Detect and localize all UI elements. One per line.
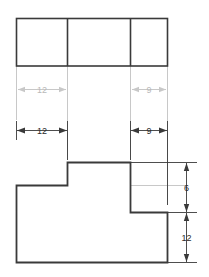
arrow-down-6: [184, 163, 189, 171]
arrow-down-12: [184, 213, 189, 221]
faded-arrow-right-9: [159, 87, 166, 92]
faded-arrow-left-9: [132, 87, 139, 92]
faded-dim-label-9: 9: [146, 85, 151, 95]
arrow-right-12: [59, 128, 67, 134]
engineering-drawing: 12 9 12 9: [0, 0, 209, 277]
arrow-right-9: [159, 128, 167, 134]
top-view-outline: [17, 19, 168, 67]
dim-label-9: 9: [146, 126, 151, 136]
arrow-left-9: [131, 128, 139, 134]
faded-arrow-left-12: [18, 87, 25, 92]
front-view: [17, 163, 168, 263]
arrow-up-6: [184, 204, 189, 212]
arrow-left-12: [17, 128, 25, 134]
vert-dim-label-6: 6: [184, 183, 189, 193]
top-view: [17, 19, 168, 67]
vert-dim-label-12: 12: [181, 233, 191, 243]
drawing-canvas: 12 9 12 9: [0, 0, 209, 277]
faded-arrow-right-12: [59, 87, 66, 92]
front-view-outline: [17, 163, 168, 263]
dim-label-12: 12: [37, 126, 47, 136]
arrow-up-12: [184, 254, 189, 262]
faded-dim-label-12: 12: [37, 85, 47, 95]
